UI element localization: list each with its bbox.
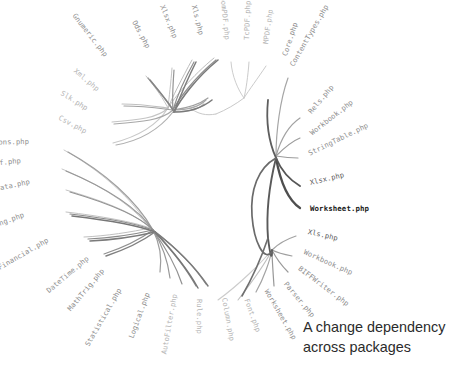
node-label: TextData.php	[0, 177, 31, 197]
node-label: Xls.php	[307, 227, 339, 243]
caption: A change dependency across packages	[303, 319, 446, 355]
node-label: LookupRef.php	[0, 156, 21, 171]
node-label: Column.php	[220, 297, 236, 342]
node-label: DomPDF.php	[219, 0, 233, 40]
node-label: AutoFilter.php	[159, 293, 178, 355]
node-label: Logical.php	[127, 291, 152, 339]
node-label: Gnumeric.php	[71, 12, 110, 59]
node-label: Rule.php	[195, 299, 204, 334]
caption-line-1: A change dependency	[303, 319, 446, 335]
node-label: Slk.php	[59, 88, 90, 112]
node-label: Engineering.php	[0, 210, 25, 241]
node-label: Xlsx.php	[158, 4, 179, 40]
node-label: Font.php	[242, 297, 262, 333]
node-label: Financial.php	[0, 236, 50, 272]
node-label: Worksheet.php	[310, 204, 370, 213]
edge-bundling-diagram: Csv.phpSlk.phpXml.phpGnumeric.phpOds.php…	[0, 0, 466, 383]
node-label: TcPDF.php	[242, 1, 252, 41]
node-label: Xlsx.php	[309, 170, 345, 187]
node-label: Xls.php	[190, 4, 206, 36]
node-label: Statistical.php	[83, 286, 124, 347]
node-label: Parser.php	[282, 280, 317, 319]
node-label: Functions.php	[0, 137, 29, 147]
node-label: Xml.php	[72, 66, 101, 93]
node-label: Csv.php	[57, 113, 88, 135]
caption-line-2: across packages	[303, 339, 411, 355]
node-label: MPDF.php	[261, 9, 275, 45]
node-label-group: Csv.phpSlk.phpXml.phpGnumeric.phpOds.php…	[0, 0, 370, 355]
node-label: Ods.php	[130, 19, 152, 50]
